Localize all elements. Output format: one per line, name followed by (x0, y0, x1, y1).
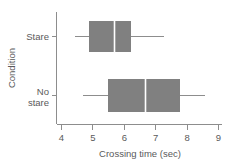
y-axis-title: Condition (6, 48, 17, 88)
category-label-no-stare-line2: stare (28, 97, 49, 108)
x-tick-label-9: 9 (216, 132, 221, 143)
x-tick-label-5: 5 (90, 132, 95, 143)
x-tick-label-4: 4 (59, 132, 64, 143)
x-tick-label-7: 7 (153, 132, 158, 143)
x-tick-label-8: 8 (184, 132, 189, 143)
boxplot-svg: Stare No stare Condition 4 5 6 7 (0, 0, 238, 165)
category-label-stare: Stare (26, 31, 49, 42)
box-group-no-stare (83, 79, 205, 112)
category-label-no-stare-line1: No (37, 86, 49, 97)
box-no-stare (108, 79, 180, 112)
x-tick-label-6: 6 (122, 132, 127, 143)
boxplot-chart: Stare No stare Condition 4 5 6 7 (0, 0, 238, 165)
x-axis-title: Crossing time (sec) (99, 148, 181, 159)
box-group-stare (75, 21, 164, 52)
box-stare (89, 21, 131, 52)
